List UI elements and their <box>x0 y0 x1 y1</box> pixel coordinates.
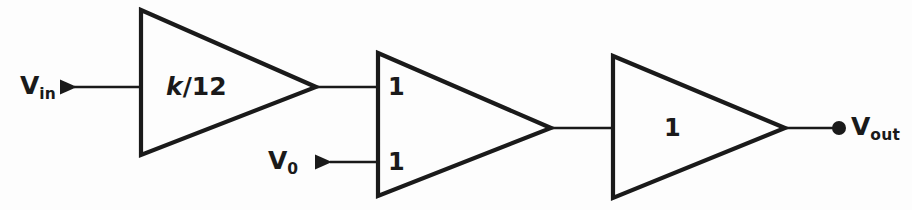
v0-arrowhead-icon <box>315 155 332 170</box>
label-v0: V0 <box>268 148 298 173</box>
label-amplifier-3-gain: 1 <box>664 116 681 140</box>
vin-arrowhead-icon <box>60 80 77 95</box>
label-vout: Vout <box>851 114 900 139</box>
block-diagram-canvas: Vin k/12 V0 1 1 1 Vout <box>0 0 912 210</box>
label-amplifier-2-gain-bottom: 1 <box>388 150 405 174</box>
vout-node-dot-icon <box>832 121 846 135</box>
label-amplifier-1-gain: k/12 <box>166 74 227 99</box>
label-amplifier-2-gain-top: 1 <box>388 75 405 99</box>
label-vin: Vin <box>20 73 56 98</box>
diagram-graphics <box>0 0 912 210</box>
amplifier-3-triangle <box>613 56 785 198</box>
